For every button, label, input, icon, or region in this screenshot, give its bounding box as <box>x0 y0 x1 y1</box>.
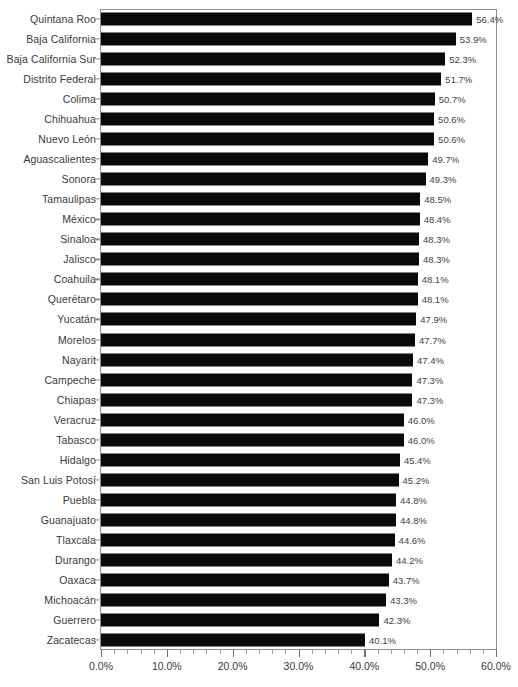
y-axis-tick <box>94 359 100 360</box>
category-label: Oaxaca <box>59 574 96 586</box>
bar-row: Oaxaca43.7% <box>0 570 518 590</box>
bar <box>101 433 404 446</box>
bar-row: Querétaro48.1% <box>0 289 518 309</box>
x-axis-tick-label: 40.0% <box>349 660 379 672</box>
bar-value-label: 47.3% <box>416 394 443 405</box>
bar-value-label: 47.4% <box>417 354 444 365</box>
category-label: Tlaxcala <box>56 534 96 546</box>
category-label: Zacatecas <box>47 634 96 646</box>
bar-value-label: 47.3% <box>416 374 443 385</box>
x-axis-major-tick <box>364 650 365 657</box>
bar <box>101 613 379 626</box>
bar-value-label: 40.1% <box>369 634 396 645</box>
bar <box>101 393 412 406</box>
x-axis-minor-tick <box>338 650 339 654</box>
bar <box>101 633 365 646</box>
bar <box>101 13 472 26</box>
x-axis-minor-tick <box>141 650 142 654</box>
y-axis-tick <box>94 58 100 59</box>
bar <box>101 353 413 366</box>
bar-value-label: 44.6% <box>399 534 426 545</box>
category-label: Quintana Roo <box>30 13 96 25</box>
bar-row: Guanajuato44.8% <box>0 510 518 530</box>
x-axis-major-tick <box>299 650 300 657</box>
category-label: Yucatán <box>57 313 96 325</box>
category-label: Michoacán <box>44 594 96 606</box>
bar <box>101 233 419 246</box>
category-label: Baja California <box>26 33 96 45</box>
bar-value-label: 50.7% <box>439 94 466 105</box>
bar <box>101 153 428 166</box>
category-label: Morelos <box>58 334 96 346</box>
bar-rows-container: Quintana Roo56.4%Baja California53.9%Baj… <box>0 9 518 650</box>
bar-row: Veracruz46.0% <box>0 410 518 430</box>
bar <box>101 573 389 586</box>
bar-value-label: 48.1% <box>422 274 449 285</box>
bar <box>101 113 434 126</box>
category-label: Nayarit <box>62 354 96 366</box>
category-label: Sonora <box>62 173 96 185</box>
bar <box>101 293 418 306</box>
bar <box>101 473 399 486</box>
bar-value-label: 56.4% <box>476 14 503 25</box>
bar <box>101 53 445 66</box>
bar-row: Sinaloa48.3% <box>0 229 518 249</box>
bar-value-label: 51.7% <box>445 74 472 85</box>
bar-row: Quintana Roo56.4% <box>0 9 518 29</box>
bar <box>101 93 435 106</box>
bar <box>101 313 416 326</box>
y-axis-tick <box>94 579 100 580</box>
y-axis-tick <box>94 199 100 200</box>
y-axis-tick <box>94 239 100 240</box>
bar <box>101 33 456 46</box>
bar-value-label: 42.3% <box>383 614 410 625</box>
bar-row: Baja California Sur52.3% <box>0 49 518 69</box>
category-label: Durango <box>55 554 96 566</box>
category-label: Distrito Federal <box>23 73 96 85</box>
horizontal-bar-chart: Quintana Roo56.4%Baja California53.9%Baj… <box>0 0 518 687</box>
x-axis-minor-tick <box>483 650 484 654</box>
bar-value-label: 48.5% <box>424 194 451 205</box>
bar-row: Michoacán43.3% <box>0 590 518 610</box>
bar-row: Aguascalientes49.7% <box>0 149 518 169</box>
bar <box>101 253 419 266</box>
bar-row: Nayarit47.4% <box>0 350 518 370</box>
y-axis-tick <box>94 319 100 320</box>
category-label: San Luis Potosí <box>21 474 96 486</box>
x-axis-minor-tick <box>470 650 471 654</box>
category-label: Colima <box>63 93 96 105</box>
bar-value-label: 48.3% <box>423 254 450 265</box>
bar-row: Sonora49.3% <box>0 169 518 189</box>
bar <box>101 173 426 186</box>
x-axis-minor-tick <box>312 650 313 654</box>
x-axis-major-tick <box>233 650 234 657</box>
x-axis-minor-tick <box>443 650 444 654</box>
bar-row: Puebla44.8% <box>0 490 518 510</box>
x-axis-tick-label: 50.0% <box>415 660 445 672</box>
x-axis-major-tick <box>167 650 168 657</box>
bar-row: Chiapas47.3% <box>0 390 518 410</box>
x-axis-minor-tick <box>127 650 128 654</box>
y-axis-tick <box>94 599 100 600</box>
y-axis-tick <box>94 179 100 180</box>
bar-row: Tamaulipas48.5% <box>0 189 518 209</box>
y-axis-tick <box>94 279 100 280</box>
y-axis-tick <box>94 379 100 380</box>
bar-row: Yucatán47.9% <box>0 309 518 329</box>
bar <box>101 533 395 546</box>
y-axis-tick <box>94 119 100 120</box>
x-axis-tick-label: 0.0% <box>89 660 113 672</box>
category-label: Puebla <box>63 494 96 506</box>
x-axis-minor-tick <box>404 650 405 654</box>
bar-row: Nuevo León50.6% <box>0 129 518 149</box>
y-axis-tick <box>94 159 100 160</box>
bar-value-label: 48.1% <box>422 294 449 305</box>
bar-row: Tabasco46.0% <box>0 430 518 450</box>
category-label: Hidalgo <box>60 454 96 466</box>
x-axis-minor-tick <box>457 650 458 654</box>
y-axis-tick <box>94 619 100 620</box>
bar-row: Jalisco48.3% <box>0 249 518 269</box>
bar <box>101 213 420 226</box>
bar-value-label: 45.2% <box>403 474 430 485</box>
x-axis-tick-label: 60.0% <box>481 660 511 672</box>
